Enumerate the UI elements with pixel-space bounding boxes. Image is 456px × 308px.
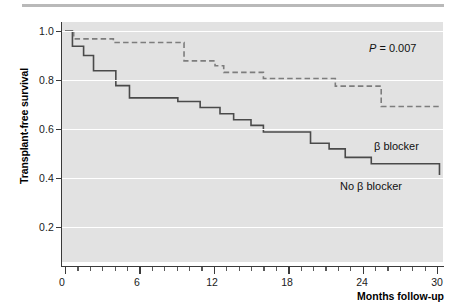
x-tick-label-30: 30 — [422, 276, 452, 288]
y-axis-title: Transplant-free survival — [18, 26, 30, 226]
series-label-beta-blocker: β blocker — [374, 140, 419, 152]
x-tick-major-6 — [139, 267, 140, 274]
y-axis-line — [61, 22, 62, 267]
gridline-1.0 — [62, 31, 443, 32]
gridline-0.2 — [62, 227, 443, 228]
x-tick-minor-11 — [201, 267, 202, 271]
p-value-text: = 0.007 — [376, 42, 416, 54]
x-tick-minor-26 — [387, 267, 388, 271]
x-tick-major-30 — [437, 267, 438, 274]
kaplan-meier-figure: 1.0 0.8 0.6 0.4 0.2 0 6 12 18 24 30 Tran… — [0, 0, 456, 308]
gridline-0.6 — [62, 129, 443, 130]
series-label-no-beta-blocker: No β blocker — [340, 180, 402, 192]
x-tick-major-24 — [363, 267, 364, 274]
x-tick-minor-29 — [425, 267, 426, 271]
y-tick-0.8 — [56, 80, 62, 81]
x-tick-minor-28 — [412, 267, 413, 271]
x-tick-minor-16 — [263, 267, 264, 271]
y-tick-0.6 — [56, 129, 62, 130]
x-tick-minor-19 — [301, 267, 302, 271]
x-tick-minor-15 — [251, 267, 252, 271]
x-tick-minor-14 — [239, 267, 240, 271]
x-tick-minor-7 — [152, 267, 153, 271]
x-tick-minor-21 — [325, 267, 326, 271]
x-tick-label-12: 12 — [197, 276, 227, 288]
x-tick-minor-23 — [350, 267, 351, 271]
x-tick-minor-22 — [338, 267, 339, 271]
x-tick-minor-3 — [102, 267, 103, 271]
x-tick-major-0 — [65, 267, 66, 274]
x-tick-minor-5 — [127, 267, 128, 271]
p-value-annotation: P = 0.007 — [369, 42, 416, 54]
x-tick-minor-10 — [189, 267, 190, 271]
x-tick-major-12 — [214, 267, 215, 274]
x-tick-minor-2 — [90, 267, 91, 271]
y-tick-0.2 — [56, 227, 62, 228]
x-tick-minor-9 — [177, 267, 178, 271]
gridline-0.8 — [62, 80, 443, 81]
x-tick-label-0: 0 — [47, 276, 77, 288]
x-tick-minor-20 — [313, 267, 314, 271]
x-tick-major-18 — [288, 267, 289, 274]
x-tick-minor-8 — [164, 267, 165, 271]
gridline-0.4 — [62, 178, 443, 179]
x-tick-minor-25 — [375, 267, 376, 271]
x-tick-minor-27 — [400, 267, 401, 271]
x-tick-label-24: 24 — [347, 276, 377, 288]
x-axis-title: Months follow-up — [357, 290, 444, 302]
x-tick-label-18: 18 — [272, 276, 302, 288]
y-tick-1.0 — [56, 31, 62, 32]
x-tick-minor-4 — [115, 267, 116, 271]
x-tick-minor-1 — [77, 267, 78, 271]
x-tick-minor-17 — [276, 267, 277, 271]
y-tick-0.4 — [56, 178, 62, 179]
x-tick-label-6: 6 — [122, 276, 152, 288]
x-tick-minor-13 — [226, 267, 227, 271]
top-horizontal-rule — [22, 4, 444, 7]
